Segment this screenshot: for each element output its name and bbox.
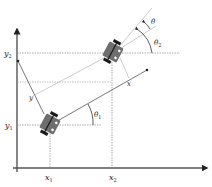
theta2-arc	[137, 29, 152, 53]
theta-arc	[144, 22, 150, 29]
x2-label: x2	[109, 173, 117, 183]
theta2-label: θ2	[154, 39, 161, 48]
theta-label: θ	[151, 18, 156, 26]
theta1-label: θ1	[94, 111, 101, 120]
relative-y-line	[33, 58, 104, 96]
theta1-arc	[88, 104, 93, 125]
robot-x-axis-label: x	[127, 80, 131, 88]
robot2-heading-line	[118, 8, 152, 48]
robot1-y-heading-line	[18, 61, 44, 114]
kinematics-diagram: y2 y1 x1 x2 y x θ1 θ2 θ	[0, 0, 212, 187]
relative-x-line	[120, 58, 129, 78]
robot1-x-heading-dot	[146, 69, 149, 72]
y1-label: y1	[4, 121, 13, 131]
robot-y-axis-label: y	[28, 94, 34, 102]
robot1-y-heading-dot	[17, 60, 20, 63]
y2-label: y2	[3, 49, 12, 59]
x1-label: x1	[45, 173, 53, 183]
